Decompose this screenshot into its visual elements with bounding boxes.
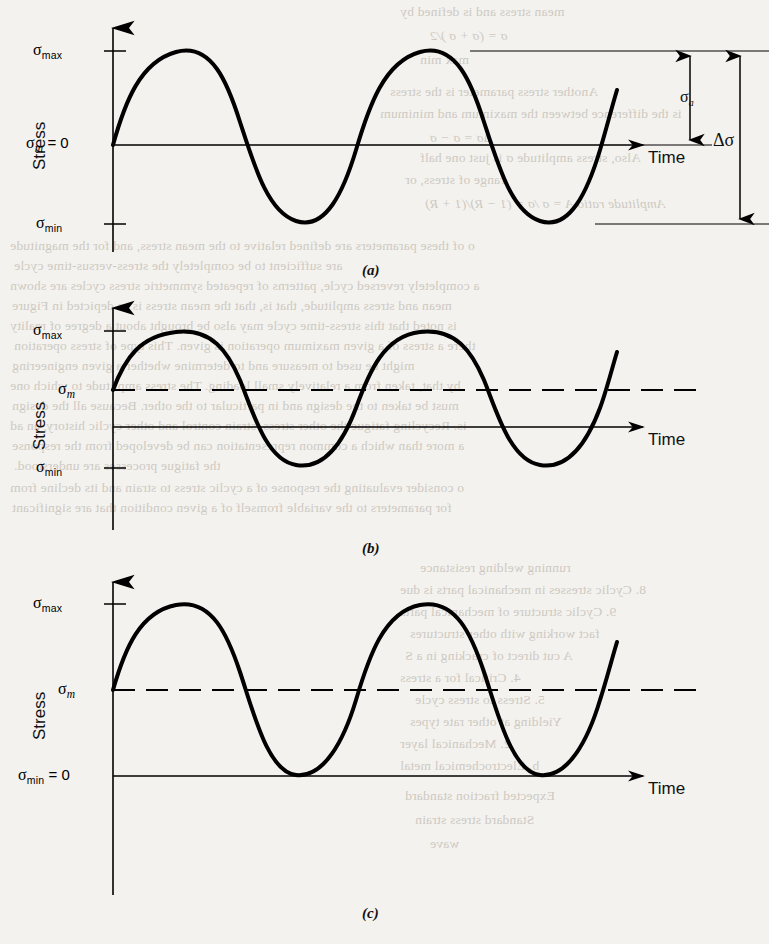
panel-a-linework	[104, 28, 769, 252]
sigma-max-subscript: max	[42, 602, 63, 614]
panel-b-stress-curve	[113, 332, 617, 466]
sigma-symbol: σ	[36, 458, 45, 475]
sigma-symbol: σ	[58, 680, 67, 697]
sigma-min-subscript: min	[27, 774, 45, 786]
sigma-min-subscript: min	[45, 222, 63, 234]
sigma-symbol: σ	[33, 41, 42, 58]
panel-c-time-label: Time	[648, 779, 685, 799]
stress-cycle-figure: mean stress and is defined by σ = (σ + σ…	[0, 0, 769, 944]
panel-a-sigma-max-label: σmax	[33, 41, 62, 61]
sigma-mean-subscript: m	[67, 388, 76, 400]
panel-c-sigma-mean-label: σm	[58, 680, 75, 700]
sigma-symbol: σ	[33, 594, 42, 611]
panel-c-sigma-max-label: σmax	[33, 594, 62, 614]
sigma-a-symbol: σ	[680, 88, 689, 105]
sigma-max-subscript: max	[42, 49, 63, 61]
panel-a-sigma-mean-label: σm = 0	[26, 134, 69, 154]
panel-b-y-axis-title: Stress	[30, 402, 50, 450]
panel-a-time-label: Time	[648, 148, 685, 168]
panel-a-caption: (a)	[362, 262, 380, 279]
panel-b-caption: (b)	[362, 540, 380, 557]
panel-c-caption: (c)	[362, 905, 379, 922]
panel-a-sigma-min-label: σmin	[36, 214, 62, 234]
sigma-mean-subscript: m	[35, 142, 44, 154]
figure-linework	[0, 0, 769, 944]
panel-a-amplitude-label: σa	[680, 88, 694, 108]
sigma-min-equals-zero: = 0	[44, 766, 69, 783]
sigma-symbol: σ	[18, 766, 27, 783]
panel-b-sigma-mean-label: σm	[58, 380, 75, 400]
panel-c-y-axis-title: Stress	[30, 692, 50, 740]
panel-c-linework	[104, 582, 700, 895]
panel-a-stress-curve	[113, 51, 617, 223]
sigma-symbol: σ	[36, 214, 45, 231]
sigma-symbol: σ	[58, 380, 67, 397]
panel-b-sigma-min-label: σmin	[36, 458, 62, 478]
panel-a-range-label: Δσ	[713, 130, 734, 151]
panel-c-sigma-min-label: σmin = 0	[18, 766, 70, 786]
sigma-mean-subscript: m	[67, 688, 76, 700]
panel-b-time-label: Time	[648, 430, 685, 450]
sigma-min-subscript: min	[45, 466, 63, 478]
panel-b-linework	[104, 308, 700, 530]
delta-sigma-symbol: Δσ	[713, 130, 734, 150]
panel-b-sigma-max-label: σmax	[33, 321, 62, 341]
sigma-symbol: σ	[26, 134, 35, 151]
sigma-max-subscript: max	[42, 329, 63, 341]
sigma-a-subscript: a	[689, 97, 694, 108]
sigma-mean-equals-zero: = 0	[43, 134, 68, 151]
sigma-symbol: σ	[33, 321, 42, 338]
